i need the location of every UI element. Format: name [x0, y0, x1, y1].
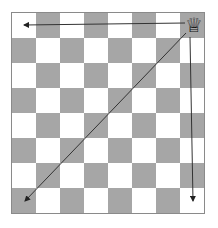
board-square — [180, 88, 204, 113]
board-square — [132, 138, 156, 163]
board-square — [108, 38, 132, 63]
board-square — [132, 88, 156, 113]
board-square — [12, 163, 36, 188]
board-square — [12, 38, 36, 63]
board-square — [156, 188, 180, 213]
board-square — [132, 38, 156, 63]
chessboard — [11, 12, 205, 214]
board-square — [36, 13, 60, 38]
board-square — [12, 138, 36, 163]
board-square — [108, 13, 132, 38]
board-square — [132, 113, 156, 138]
board-square — [156, 13, 180, 38]
board-square — [156, 163, 180, 188]
board-square — [132, 188, 156, 213]
board-square — [84, 38, 108, 63]
board-square — [60, 163, 84, 188]
board-square — [36, 63, 60, 88]
board-square — [156, 138, 180, 163]
board-square — [84, 138, 108, 163]
board-square — [180, 38, 204, 63]
board-square — [60, 88, 84, 113]
board-square — [12, 13, 36, 38]
board-square — [84, 113, 108, 138]
board-square — [60, 138, 84, 163]
board-square — [180, 188, 204, 213]
board-square — [84, 13, 108, 38]
board-square — [156, 88, 180, 113]
board-square — [180, 163, 204, 188]
board-square — [36, 138, 60, 163]
board-square — [84, 188, 108, 213]
board-square — [36, 113, 60, 138]
board-square — [84, 163, 108, 188]
board-square — [60, 63, 84, 88]
board-square — [36, 188, 60, 213]
board-square — [132, 163, 156, 188]
board-square — [156, 38, 180, 63]
board-square — [180, 138, 204, 163]
board-square — [12, 188, 36, 213]
board-square — [108, 163, 132, 188]
board-square — [108, 188, 132, 213]
board-square — [156, 63, 180, 88]
board-square — [36, 88, 60, 113]
board-square — [60, 113, 84, 138]
board-square — [84, 63, 108, 88]
board-square — [108, 138, 132, 163]
board-square — [108, 113, 132, 138]
board-square — [108, 88, 132, 113]
board-square — [156, 113, 180, 138]
board-square — [132, 63, 156, 88]
queen-icon: ♕ — [183, 12, 205, 37]
board-square — [60, 13, 84, 38]
board-square — [132, 13, 156, 38]
board-square — [12, 88, 36, 113]
board-square — [36, 163, 60, 188]
board-square — [60, 188, 84, 213]
board-square — [108, 63, 132, 88]
board-square — [180, 63, 204, 88]
board-square — [60, 38, 84, 63]
board-square — [84, 88, 108, 113]
board-square — [12, 63, 36, 88]
board-square — [180, 113, 204, 138]
board-square — [12, 113, 36, 138]
board-square — [36, 38, 60, 63]
